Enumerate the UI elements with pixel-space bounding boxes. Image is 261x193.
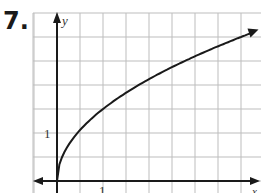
svg-text:1: 1 bbox=[44, 126, 51, 141]
svg-text:1: 1 bbox=[99, 183, 106, 193]
axis-labels: yx11 bbox=[44, 13, 257, 193]
function-curve bbox=[57, 33, 253, 181]
axes bbox=[33, 12, 260, 193]
grid-lines bbox=[33, 13, 261, 193]
svg-text:x: x bbox=[251, 185, 257, 193]
svg-text:y: y bbox=[60, 13, 68, 28]
sqrt-function-graph: yx11 bbox=[0, 0, 261, 193]
